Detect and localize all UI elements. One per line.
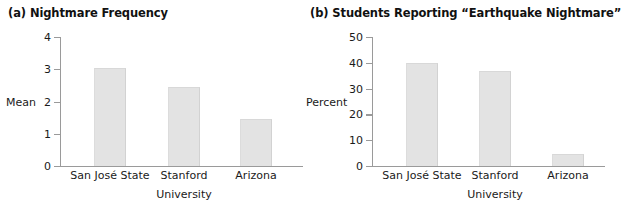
y-tick-mark: [54, 166, 61, 167]
y-tick-label: 50: [349, 32, 363, 43]
y-axis-line-a: [60, 37, 61, 166]
y-tick-label: 20: [349, 109, 363, 120]
x-category-label-a-0: San José State: [70, 170, 149, 181]
bar-b-0: [406, 63, 438, 166]
y-tick-mark: [54, 37, 61, 38]
y-tick-mark: [366, 37, 373, 38]
bar-a-2: [240, 119, 272, 166]
chart-panel-a: (a) Nightmare Frequency Mean 01234San Jo…: [0, 0, 300, 219]
x-category-label-a-1: Stanford: [161, 170, 208, 181]
x-category-label-b-0: San José State: [382, 170, 461, 181]
plot-area-a: 01234San José StateStanfordArizonaUniver…: [60, 37, 285, 166]
chart-title-a: (a) Nightmare Frequency: [8, 6, 168, 20]
y-tick-mark: [366, 140, 373, 141]
y-tick-mark: [366, 166, 373, 167]
x-category-label-a-2: Arizona: [235, 170, 276, 181]
y-tick-label: 2: [44, 96, 51, 107]
x-axis-title-b: University: [467, 189, 523, 200]
bar-b-2: [552, 154, 584, 166]
y-tick-label: 40: [349, 57, 363, 68]
y-tick-mark: [54, 69, 61, 70]
bar-a-0: [94, 68, 126, 166]
x-axis-line-a: [56, 166, 303, 168]
plot-area-b: 01020304050San José StateStanfordArizona…: [372, 37, 587, 166]
y-tick-label: 3: [44, 64, 51, 75]
y-tick-label: 10: [349, 135, 363, 146]
y-tick-mark: [366, 89, 373, 90]
y-axis-line-b: [372, 37, 373, 166]
bar-b-1: [479, 71, 511, 166]
y-tick-label: 0: [356, 161, 363, 172]
y-axis-title-a: Mean: [6, 96, 36, 107]
y-tick-mark: [366, 114, 373, 115]
y-tick-mark: [366, 63, 373, 64]
x-category-label-b-2: Arizona: [547, 170, 588, 181]
y-tick-mark: [54, 134, 61, 135]
y-tick-mark: [54, 102, 61, 103]
x-axis-title-a: University: [156, 189, 212, 200]
y-axis-title-b: Percent: [306, 96, 347, 107]
y-tick-label: 1: [44, 128, 51, 139]
x-axis-line-b: [368, 166, 605, 168]
y-tick-label: 30: [349, 83, 363, 94]
y-tick-label: 0: [44, 161, 51, 172]
bar-a-1: [168, 87, 200, 166]
x-category-label-b-1: Stanford: [472, 170, 519, 181]
chart-title-b: (b) Students Reporting “Earthquake Night…: [310, 6, 621, 20]
y-tick-label: 4: [44, 32, 51, 43]
